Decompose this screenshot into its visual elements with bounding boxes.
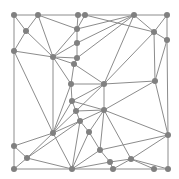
mesh-edge [72,84,104,101]
mesh-node [74,55,80,61]
mesh-edge [74,64,104,84]
mesh-node [77,118,83,124]
mesh-edge [155,81,168,135]
mesh-node [75,12,81,18]
mesh-edge [167,40,168,135]
mesh-edge [53,57,71,84]
mesh-edge [38,15,77,29]
mesh-edge [27,133,53,158]
mesh-edge [100,135,168,150]
mesh-node [82,12,88,18]
mesh-node [164,12,170,18]
mesh-node [11,166,17,172]
mesh-edge [14,51,53,133]
mesh-node [97,147,103,153]
mesh-node [86,129,92,135]
mesh-node [74,26,80,32]
mesh-node [164,37,170,43]
mesh-edge [154,32,155,81]
mesh-node [23,28,29,34]
mesh-node [165,132,171,138]
mesh-edge [77,15,134,43]
mesh-node [69,98,75,104]
mesh-edge [89,132,100,150]
mesh-edge [72,121,80,169]
mesh-node [101,107,107,113]
mesh-node [11,48,17,54]
mesh-node [50,54,56,60]
mesh-node [151,29,157,35]
mesh-edge [76,110,104,111]
mesh-edge [155,40,167,81]
mesh-node [128,156,134,162]
mesh-node [74,40,80,46]
mesh-edge [76,84,104,111]
mesh-node [24,155,30,161]
mesh-node [131,12,137,18]
mesh-edge [104,81,155,110]
mesh-node [73,108,79,114]
mesh-node [11,12,17,18]
mesh-edge [100,110,104,150]
mesh-node [35,12,41,18]
mesh-edge [104,15,134,84]
mesh-edge [14,31,26,51]
mesh-edge [53,43,77,57]
mesh-edge [104,32,154,84]
mesh-node [71,61,77,67]
mesh-node [107,159,113,165]
mesh-node [151,166,157,172]
mesh-node [152,78,158,84]
mesh-edge [104,81,155,84]
mesh-node [11,143,17,149]
mesh-node [68,81,74,87]
mesh-edge [53,84,71,133]
mesh-edge [27,158,72,169]
mesh-node [101,81,107,87]
mesh-edge [53,29,77,57]
mesh-node [110,166,116,172]
mesh-edge [38,15,53,57]
mesh-edge [77,15,134,58]
mesh-node [50,130,56,136]
mesh-edge [53,133,72,169]
mesh-edge [71,64,74,84]
mesh-node [69,166,75,172]
mesh-edge [104,110,131,159]
mesh-edge [154,15,167,32]
mesh-edges [14,15,168,169]
mesh-edge [104,110,168,135]
mesh-node [165,166,171,172]
mesh-diagram [0,0,179,179]
